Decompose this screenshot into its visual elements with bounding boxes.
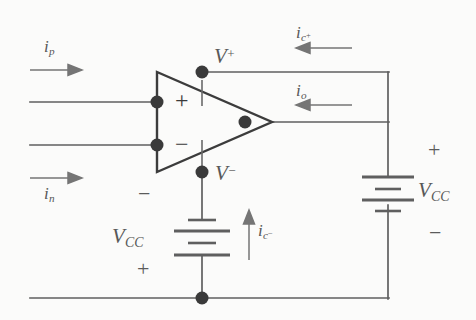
i-c-plus-sign: +	[306, 30, 311, 40]
i-c-minus-arrow-head	[244, 210, 255, 224]
circuit-schematic-svg	[0, 0, 476, 320]
vcc-right-subscript: CC	[431, 189, 450, 204]
i-n-arrow-head	[68, 173, 82, 184]
node-vplus-supply	[196, 66, 209, 79]
i-c-plus-label: ic+	[296, 24, 311, 43]
v-plus-superscript: +	[227, 46, 235, 61]
v-minus-base: V	[215, 161, 228, 185]
node-noninverting-input	[151, 96, 164, 109]
i-c-minus-sign: −	[268, 228, 273, 238]
vcc-bottom-positive-sign: +	[137, 258, 149, 280]
node-output-terminal	[239, 116, 252, 129]
i-p-label: ip	[44, 38, 55, 57]
node-inverting-input	[151, 139, 164, 152]
opamp-noninverting-sign: +	[175, 88, 189, 112]
node-vminus-supply	[196, 166, 209, 179]
opamp-inverting-sign: −	[175, 132, 189, 156]
v-plus-label: V+	[214, 46, 235, 67]
vcc-bottom-base: V	[112, 224, 125, 248]
vcc-bottom-label: VCC	[112, 226, 144, 250]
v-minus-label: V−	[215, 163, 236, 184]
i-o-label: io	[296, 82, 307, 101]
i-p-subscript: p	[49, 45, 55, 57]
i-o-subscript: o	[301, 89, 307, 101]
node-ground-junction	[196, 292, 209, 305]
i-p-arrow-head	[68, 65, 82, 76]
v-plus-base: V	[214, 44, 227, 68]
vcc-bottom-negative-sign: −	[138, 183, 150, 205]
v-minus-superscript: −	[228, 163, 236, 178]
i-n-label: in	[44, 185, 55, 204]
i-n-subscript: n	[49, 192, 55, 204]
i-c-minus-label: ic−	[258, 222, 273, 241]
vcc-right-positive-sign: +	[428, 139, 440, 161]
i-c-plus-arrow-head	[296, 43, 310, 54]
vcc-bottom-subscript: CC	[125, 235, 144, 250]
vcc-right-label: VCC	[418, 180, 450, 204]
circuit-diagram-canvas: + − V+ V− ip in io ic+ ic− VCC − + VCC +…	[0, 0, 476, 320]
vcc-right-negative-sign: −	[429, 222, 441, 244]
vcc-right-base: V	[418, 178, 431, 202]
